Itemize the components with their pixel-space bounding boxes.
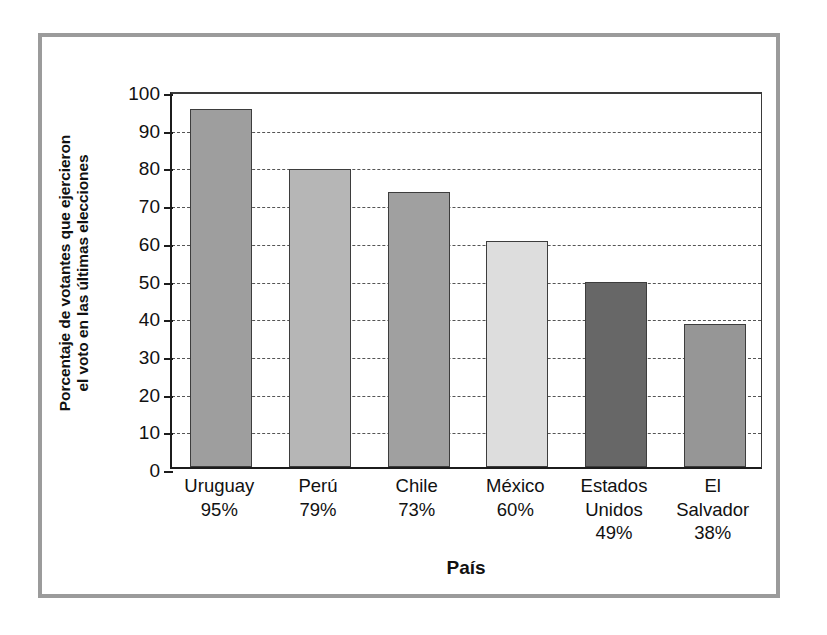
y-axis-title-line-1: Porcentaje de votantes que ejercieron <box>56 135 74 411</box>
plot-area: 1009080706050403020100 <box>170 92 762 469</box>
y-axis-tick-mark <box>164 132 173 134</box>
y-axis-tick-label: 20 <box>139 385 160 407</box>
gridline <box>172 433 761 434</box>
x-axis-category-name: Estados <box>565 474 664 498</box>
y-axis-tick-label: 100 <box>128 83 160 105</box>
gridline <box>172 320 761 321</box>
x-axis-value-label: 73% <box>367 498 466 522</box>
x-axis-category-name: Salvador <box>663 498 762 522</box>
gridline <box>172 169 761 170</box>
x-axis-category-label: EstadosUnidos49% <box>565 474 664 545</box>
x-axis-category-label: ElSalvador38% <box>663 474 762 545</box>
x-axis-category-label: Chile73% <box>367 474 466 521</box>
x-axis-category-name: México <box>466 474 565 498</box>
y-axis-tick-label: 40 <box>139 309 160 331</box>
x-axis-category-name: Uruguay <box>170 474 269 498</box>
y-axis-tick-mark <box>164 396 173 398</box>
x-axis-value-label: 95% <box>170 498 269 522</box>
y-axis-title-line-2: el voto en las últimas elecciones <box>74 154 92 391</box>
x-axis-value-label: 49% <box>565 521 664 545</box>
y-axis-tick-label: 80 <box>139 158 160 180</box>
y-axis-title: Porcentaje de votantes que ejercieron el… <box>44 13 104 533</box>
y-axis-tick-mark <box>164 169 173 171</box>
y-axis-tick-mark <box>164 433 173 435</box>
x-axis-category-name: El <box>663 474 762 498</box>
y-axis-tick-mark <box>164 94 173 96</box>
x-axis-category-name: Unidos <box>565 498 664 522</box>
bar <box>190 109 252 467</box>
y-axis-tick-mark <box>164 283 173 285</box>
y-axis-tick-label: 90 <box>139 121 160 143</box>
y-axis-tick-mark <box>164 358 173 360</box>
x-axis-category-label: Perú79% <box>269 474 368 521</box>
bar <box>585 282 647 467</box>
y-axis-tick-label: 10 <box>139 422 160 444</box>
bar <box>486 241 548 467</box>
figure-frame: Porcentaje de votantes que ejercieron el… <box>38 33 780 598</box>
x-axis-category-labels: Uruguay95%Perú79%Chile73%México60%Estado… <box>170 474 762 569</box>
y-axis-tick-label: 60 <box>139 234 160 256</box>
x-axis-category-name: Chile <box>367 474 466 498</box>
bar <box>289 169 351 467</box>
x-axis-category-label: México60% <box>466 474 565 521</box>
x-axis-value-label: 60% <box>466 498 565 522</box>
y-axis-tick-label: 0 <box>149 460 160 482</box>
y-axis-tick-mark <box>164 320 173 322</box>
y-axis-tick-mark <box>164 245 173 247</box>
bar <box>388 192 450 467</box>
x-axis-category-name: Perú <box>269 474 368 498</box>
x-axis-category-label: Uruguay95% <box>170 474 269 521</box>
gridline <box>172 207 761 208</box>
y-axis-tick-label: 50 <box>139 272 160 294</box>
y-axis-tick-label: 70 <box>139 196 160 218</box>
gridline <box>172 396 761 397</box>
gridline <box>172 132 761 133</box>
x-axis-value-label: 38% <box>663 521 762 545</box>
y-axis-tick-mark <box>164 207 173 209</box>
gridline <box>172 245 761 246</box>
y-axis-tick-mark <box>164 471 173 473</box>
gridline <box>172 283 761 284</box>
x-axis-value-label: 79% <box>269 498 368 522</box>
bar <box>684 324 746 467</box>
gridline <box>172 358 761 359</box>
x-axis-title: País <box>170 557 762 579</box>
y-axis-tick-label: 30 <box>139 347 160 369</box>
